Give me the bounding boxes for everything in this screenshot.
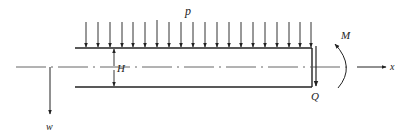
shear-label: Q (311, 90, 319, 102)
load-label: p (184, 4, 191, 18)
w-axis-label: w (46, 121, 53, 132)
height-label: H (116, 62, 126, 74)
x-axis-label: x (389, 61, 395, 72)
moment-arc (335, 44, 346, 88)
moment-label: M (340, 29, 351, 41)
distributed-load-arrows (86, 20, 311, 47)
beam (75, 48, 312, 87)
beam-diagram: p H M Q x w (0, 0, 408, 134)
